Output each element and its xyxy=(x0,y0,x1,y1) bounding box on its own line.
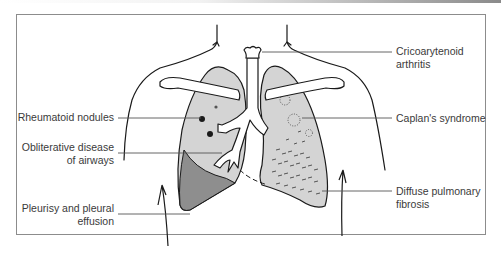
label-diffuse-pulmonary-fibrosis: Diffuse pulmonary fibrosis xyxy=(396,185,480,210)
left-arm-line xyxy=(339,170,346,236)
label-rheumatoid-nodules: Rheumatoid nodules xyxy=(14,111,114,124)
chest-lung-illustration xyxy=(0,0,501,270)
larynx xyxy=(244,47,261,59)
right-arm-line xyxy=(158,185,168,246)
label-cricoarytenoid-arthritis: Cricoarytenoid arthritis xyxy=(396,45,464,70)
label-caplans-syndrome: Caplan's syndrome xyxy=(396,112,486,125)
label-obliterative-disease: Obliterative disease of airways xyxy=(14,141,114,166)
label-pleurisy-effusion: Pleurisy and pleural effusion xyxy=(14,202,114,227)
